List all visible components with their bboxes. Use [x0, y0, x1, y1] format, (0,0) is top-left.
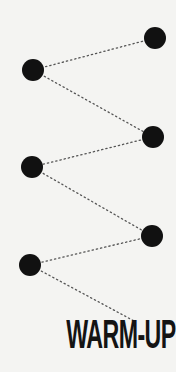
- dot-node: [21, 156, 43, 178]
- dot-node: [141, 225, 163, 247]
- dotted-connectors: [30, 38, 155, 322]
- dotted-connector-line: [30, 236, 152, 265]
- dotted-connector-line: [33, 38, 155, 70]
- dotted-connector-line: [32, 137, 153, 167]
- diagram-title: WARM-UP: [66, 314, 127, 354]
- dotted-connector-line: [33, 70, 153, 137]
- warm-up-diagram: WARM-UP: [0, 0, 176, 372]
- dot-node: [19, 254, 41, 276]
- dot-node: [142, 126, 164, 148]
- dot-node: [144, 27, 166, 49]
- dotted-connector-line: [32, 167, 152, 236]
- dot-node: [22, 59, 44, 81]
- dot-nodes: [19, 27, 166, 276]
